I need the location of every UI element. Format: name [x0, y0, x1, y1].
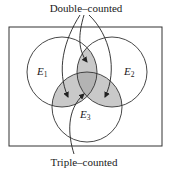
set-e3-label: E3 [79, 108, 91, 122]
venn-diagram: E1 E2 E3 [0, 0, 172, 176]
double-counted-label: Double–counted [0, 3, 172, 14]
triple-counted-label: Triple–counted [0, 157, 168, 168]
set-e1-label: E1 [36, 65, 48, 79]
set-e2-label: E2 [123, 65, 135, 79]
